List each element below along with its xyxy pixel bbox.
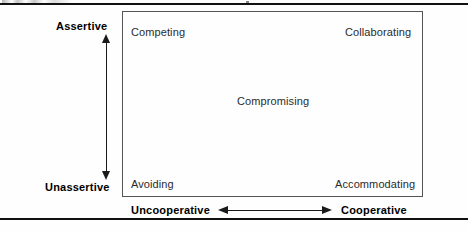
mode-label-competing: Competing (131, 26, 185, 38)
axis-label-unassertive: Unassertive (45, 181, 110, 193)
arrow-shaft-horizontal (223, 210, 327, 211)
arrow-head-right-icon (322, 206, 332, 214)
vertical-double-arrow-icon (100, 34, 113, 180)
axis-label-uncooperative: Uncooperative (131, 204, 210, 216)
arrow-shaft-vertical (106, 39, 107, 175)
mode-label-compromising: Compromising (237, 95, 309, 107)
axis-label-assertive: Assertive (56, 20, 107, 32)
bottom-horizontal-rule (0, 218, 468, 220)
mode-label-accommodating: Accommodating (335, 178, 415, 190)
axis-label-cooperative: Cooperative (341, 204, 407, 216)
arrow-head-down-icon (102, 171, 110, 180)
mode-label-collaborating: Collaborating (345, 26, 411, 38)
mode-label-avoiding: Avoiding (131, 178, 174, 190)
top-horizontal-rule (0, 3, 468, 5)
horizontal-double-arrow-icon (218, 204, 332, 217)
figure-canvas: Competing Collaborating Compromising Avo… (0, 0, 468, 231)
